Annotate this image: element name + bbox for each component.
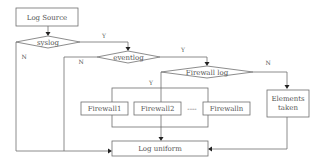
- node-log-source: Log Source: [16, 8, 78, 26]
- node-firewall2-label: Firewall2: [141, 105, 175, 113]
- node-elements-taken: Elements taken: [267, 90, 309, 117]
- edge-firewall-no-label: N: [265, 59, 270, 66]
- node-eventlog-decision: eventlog: [97, 51, 160, 63]
- arrow-left-icon: [208, 147, 212, 152]
- edge-syslog-yes: Y: [80, 32, 131, 51]
- node-firewalln: Firewalln: [203, 102, 250, 115]
- node-syslog-label: syslog: [37, 39, 60, 47]
- node-log-source-label: Log Source: [27, 14, 68, 22]
- arrow-down-icon: [285, 85, 290, 89]
- edge-firewall-yes: Y: [148, 72, 161, 88]
- node-firewall-log-label: Firewall log: [186, 69, 229, 77]
- node-syslog-decision: syslog: [16, 36, 80, 48]
- arrow-down-icon: [205, 62, 210, 66]
- node-firewall1: Firewall1: [81, 102, 128, 115]
- edge-firewall-yes-label: Y: [148, 79, 154, 86]
- arrow-right-icon: [108, 149, 112, 154]
- edge-firewall-no: N: [253, 59, 290, 89]
- edge-eventlog-yes-label: Y: [180, 46, 186, 53]
- node-firewall2: Firewall2: [134, 102, 181, 115]
- node-firewalln-label: Firewalln: [210, 105, 244, 113]
- node-firewall-log-decision: Firewall log: [161, 66, 253, 78]
- edge-firewalls-to-log-uniform: [159, 127, 164, 141]
- flowchart: Log Source syslog Y N eventlog N Y: [0, 0, 324, 165]
- node-eventlog-label: eventlog: [113, 54, 144, 62]
- node-elements-taken-line2: taken: [278, 104, 298, 112]
- edge-eventlog-no-label: N: [78, 58, 83, 65]
- node-elements-taken-line1: Elements: [271, 95, 305, 103]
- node-log-uniform: Log uniform: [112, 141, 208, 156]
- firewall-ellipsis: ----: [187, 105, 197, 113]
- node-firewall1-label: Firewall1: [88, 105, 122, 113]
- arrow-down-icon: [126, 47, 131, 51]
- edge-syslog-no-label: N: [21, 53, 26, 60]
- edge-elements-to-log-uniform: [208, 117, 287, 152]
- arrow-down-icon: [159, 137, 164, 141]
- edge-syslog-yes-label: Y: [101, 32, 107, 39]
- node-log-uniform-label: Log uniform: [138, 145, 182, 153]
- edge-eventlog-yes: Y: [160, 46, 210, 66]
- edge-source-to-syslog: [46, 26, 51, 36]
- arrow-down-icon: [46, 32, 51, 36]
